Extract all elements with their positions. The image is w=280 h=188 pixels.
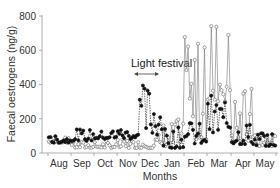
- open-circle-marker: [77, 142, 80, 145]
- filled-circle-marker: [237, 131, 240, 134]
- filled-circle-marker: [177, 126, 180, 129]
- open-circle-marker: [183, 36, 186, 39]
- open-circle-marker: [115, 143, 118, 146]
- filled-circle-marker: [182, 146, 185, 149]
- month-feb: Feb: [187, 158, 205, 169]
- filled-circle-marker: [175, 145, 178, 148]
- open-circle-marker: [248, 113, 251, 116]
- month-sep: Sep: [73, 158, 91, 169]
- filled-circle-marker: [206, 102, 209, 105]
- filled-circle-marker: [215, 103, 218, 106]
- filled-circle-marker: [180, 138, 183, 141]
- open-circle-marker: [193, 58, 196, 61]
- open-circle-marker: [266, 137, 269, 140]
- open-circle-marker: [196, 42, 199, 45]
- filled-circle-marker: [160, 128, 163, 131]
- filled-circle-marker: [240, 142, 243, 145]
- open-circle-marker: [225, 85, 228, 88]
- open-circle-marker: [124, 145, 127, 148]
- open-circle-marker: [191, 115, 194, 118]
- filled-circle-marker: [271, 133, 274, 136]
- filled-circle-marker: [52, 141, 55, 144]
- month-mar: Mar: [210, 158, 228, 169]
- filled-circle-marker: [118, 132, 121, 135]
- filled-circle-marker: [148, 92, 151, 95]
- open-circle-marker: [238, 112, 241, 115]
- filled-circle-marker: [137, 133, 140, 136]
- filled-circle-marker: [222, 116, 225, 119]
- open-circle-marker: [274, 135, 277, 138]
- filled-circle-marker: [54, 135, 57, 138]
- filled-circle-marker: [123, 137, 126, 140]
- filled-circle-marker: [225, 122, 228, 125]
- filled-circle-marker: [100, 130, 103, 133]
- filled-circle-marker: [88, 128, 91, 131]
- filled-circle-marker: [159, 116, 162, 119]
- open-circle-marker: [123, 140, 126, 143]
- open-circle-marker: [258, 144, 261, 147]
- ytick-800: 800: [19, 11, 36, 22]
- filled-circle-marker: [193, 142, 196, 145]
- filled-circle-marker: [127, 134, 130, 137]
- open-circle-marker: [156, 138, 159, 141]
- open-circle-marker: [250, 87, 253, 90]
- open-circle-marker: [220, 89, 223, 92]
- filled-circle-marker: [164, 127, 167, 130]
- filled-circle-marker: [149, 123, 152, 126]
- open-circle-marker: [129, 142, 132, 145]
- filled-circle-marker: [255, 144, 258, 147]
- filled-circle-marker: [274, 144, 277, 147]
- ytick-200: 200: [19, 114, 36, 125]
- open-circle-marker: [132, 141, 135, 144]
- open-circle-marker: [234, 100, 237, 103]
- ytick-600: 600: [19, 45, 36, 56]
- open-circle-marker: [92, 145, 95, 148]
- filled-circle-marker: [258, 138, 261, 141]
- filled-circle-marker: [141, 84, 144, 87]
- open-circle-marker: [162, 124, 165, 127]
- filled-circle-marker: [87, 137, 90, 140]
- filled-circle-marker: [108, 136, 111, 139]
- open-circle-marker: [152, 144, 155, 147]
- open-circle-marker: [135, 146, 138, 149]
- light-festival-label: Light festival: [131, 57, 192, 69]
- filled-circle-marker: [157, 123, 160, 126]
- month-jan: Jan: [164, 158, 180, 169]
- filled-circle-marker: [143, 87, 146, 90]
- filled-circle-marker: [151, 131, 154, 134]
- filled-circle-marker: [187, 133, 190, 136]
- filled-circle-marker: [205, 140, 208, 143]
- month-labels: Aug Sep Oct Nov Dec Jan Feb Mar Apr May: [50, 158, 274, 169]
- filled-circle-marker: [266, 133, 269, 136]
- open-circle-marker: [213, 98, 216, 101]
- filled-circle-marker: [172, 130, 175, 133]
- filled-circle-marker: [138, 98, 141, 101]
- open-circle-marker: [218, 83, 221, 86]
- filled-circle-marker: [263, 134, 266, 137]
- open-circle-marker: [215, 25, 218, 28]
- open-circle-marker: [100, 146, 103, 149]
- filled-circle-marker: [269, 143, 272, 146]
- filled-circle-marker: [208, 128, 211, 131]
- filled-circle-marker: [115, 135, 118, 138]
- month-aug: Aug: [50, 158, 68, 169]
- open-circle-marker: [253, 134, 256, 137]
- open-circle-marker: [247, 139, 250, 142]
- filled-circle-marker: [191, 128, 194, 131]
- open-circle-marker: [227, 33, 230, 36]
- open-circle-marker: [243, 90, 246, 93]
- filled-circle-marker: [119, 128, 122, 131]
- open-circle-marker: [126, 139, 129, 142]
- filled-circle-marker: [253, 138, 256, 141]
- open-circle-marker: [211, 89, 214, 92]
- open-circle-marker: [190, 82, 193, 85]
- x-ticks: [48, 153, 276, 156]
- open-circle-marker: [235, 126, 238, 129]
- open-circle-marker: [201, 112, 204, 115]
- open-circle-marker: [82, 141, 85, 144]
- filled-circle-marker: [154, 125, 157, 128]
- filled-circle-marker: [220, 107, 223, 110]
- filled-circle-marker: [165, 134, 168, 137]
- filled-circle-marker: [146, 89, 149, 92]
- filled-circle-marker: [152, 113, 155, 116]
